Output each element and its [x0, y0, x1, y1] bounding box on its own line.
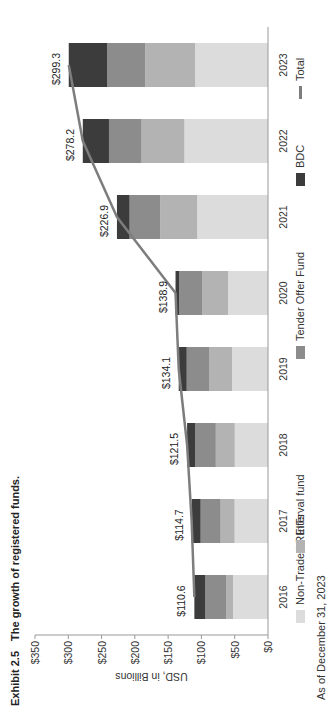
bar-segment-interval-fund	[142, 119, 185, 163]
bar-segment-non-traded-reits	[197, 195, 268, 239]
legend-label: Tender Offer Fund	[294, 252, 306, 341]
x-tick-label: 2019	[277, 357, 289, 381]
data-label-total: $226.9	[98, 205, 110, 237]
bar-segment-non-traded-reits	[235, 499, 268, 543]
x-tick-label: 2016	[277, 585, 289, 609]
y-tick-label: $350	[29, 641, 41, 665]
x-tick-label: 2021	[277, 205, 289, 229]
y-tick-label: $150	[162, 641, 174, 665]
bar-segment-non-traded-reits	[232, 347, 268, 391]
y-tick-label: $0	[262, 641, 274, 653]
bar-segment-non-traded-reits	[233, 575, 268, 619]
y-axis-title: USD, in Billions	[115, 671, 187, 683]
data-label-total: $138.9	[157, 281, 169, 313]
bar-segment-bdc	[69, 43, 107, 87]
legend-item-tender-offer-fund: Tender Offer Fund	[294, 252, 306, 359]
x-tick-label: 2023	[277, 53, 289, 77]
plot-area: $0$50$100$150$200$250$300$350USD, in Bil…	[0, 0, 332, 724]
y-tick-label: $200	[129, 641, 141, 665]
legend-swatch-interval-fund	[296, 540, 305, 553]
x-tick-label: 2022	[277, 129, 289, 153]
y-tick-label: $50	[229, 641, 241, 659]
bar-segment-non-traded-reits	[184, 119, 268, 163]
legend-swatch-non-traded-reits	[296, 610, 305, 623]
bar-segment-tender-offer-fund	[109, 119, 142, 163]
legend-item-interval-fund: Interval fund	[294, 474, 306, 553]
legend-swatch-bdc	[296, 173, 305, 186]
bar-segment-tender-offer-fund	[195, 423, 216, 467]
legend-item-bdc: BDC	[294, 145, 306, 186]
legend-swatch-tender-offer-fund	[296, 346, 305, 359]
legend: Non-Traded REITs Interval fund Tender Of…	[294, 0, 308, 724]
bar-segment-tender-offer-fund	[187, 347, 209, 391]
x-tick-label: 2018	[277, 433, 289, 457]
bar-segment-non-traded-reits	[235, 423, 268, 467]
y-tick-label: $250	[96, 641, 108, 665]
x-tick-label: 2020	[277, 281, 289, 305]
bar-segment-interval-fund	[226, 575, 233, 619]
bar-segment-bdc	[194, 575, 205, 619]
data-label-total: $114.7	[173, 509, 185, 540]
chart-figure: Exhibit 2.5The growth of registered fund…	[0, 0, 332, 724]
y-tick-label: $100	[195, 641, 207, 665]
y-tick-label: $300	[62, 641, 74, 665]
bar-segment-interval-fund	[160, 195, 197, 239]
x-tick-label: 2017	[277, 509, 289, 533]
legend-label: BDC	[294, 145, 306, 168]
legend-item-total: Total	[294, 58, 306, 99]
bar-segment-non-traded-reits	[228, 271, 268, 315]
bar-segment-tender-offer-fund	[201, 499, 221, 543]
bar-segment-tender-offer-fund	[205, 575, 226, 619]
data-label-total: $110.6	[175, 585, 187, 616]
footnote: As of December 31, 2023	[315, 575, 327, 700]
data-label-total: $134.1	[160, 357, 172, 389]
bar-segment-interval-fund	[202, 271, 228, 315]
bar-segment-interval-fund	[209, 347, 232, 391]
bar-segment-interval-fund	[216, 423, 235, 467]
bar-segment-interval-fund	[221, 499, 235, 543]
legend-label: Interval fund	[294, 474, 306, 535]
data-label-total: $299.3	[50, 53, 62, 85]
legend-line-total	[299, 86, 302, 99]
bar-segment-interval-fund	[145, 43, 195, 87]
data-label-total: $278.2	[64, 129, 76, 161]
bar-segment-tender-offer-fund	[130, 195, 161, 239]
bar-segment-tender-offer-fund	[179, 271, 202, 315]
data-label-total: $121.5	[168, 433, 180, 465]
bar-segment-non-traded-reits	[195, 43, 268, 87]
bar-segment-bdc	[83, 119, 109, 163]
bar-segment-tender-offer-fund	[107, 43, 145, 87]
legend-label: Total	[294, 58, 306, 81]
